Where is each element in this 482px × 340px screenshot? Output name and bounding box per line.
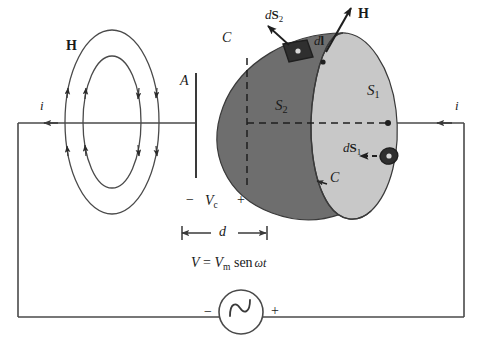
h-field-label-left: H xyxy=(66,39,77,53)
capacitor-minus-sign: − xyxy=(186,193,194,207)
capacitor-voltage-subscript: c xyxy=(214,200,218,210)
ds1-label: dS1 xyxy=(343,141,361,156)
field-arrow-inner-lower-left xyxy=(85,145,86,156)
capacitor-plus-sign: + xyxy=(237,193,245,207)
dl-label: dl xyxy=(314,34,324,47)
plate-a-label: A xyxy=(180,74,189,88)
surface-s2-letter: S xyxy=(275,97,283,113)
field-line-outer xyxy=(65,30,159,214)
dl-l: l xyxy=(321,33,325,48)
ds2-s: S xyxy=(272,7,279,22)
ds2-subscript: 2 xyxy=(279,14,283,24)
ds2-normal-arrow xyxy=(268,26,289,45)
surface-s1-subscript: 1 xyxy=(375,89,380,100)
equation-v-letter: V xyxy=(191,255,200,270)
field-line-arrowheads xyxy=(67,88,157,156)
ds2-label: dS2 xyxy=(265,8,283,23)
source-minus-sign: − xyxy=(204,305,212,319)
capacitor-voltage-letter: V xyxy=(205,193,214,208)
field-arrow-outer-lower-left xyxy=(67,146,68,156)
equation-vm-letter: V xyxy=(214,255,223,270)
axis-endpoint-dot xyxy=(385,120,391,126)
contour-label-c-bottom: C xyxy=(330,171,339,185)
field-arrow-outer-upper-left xyxy=(67,88,68,98)
field-arrow-inner-upper-left xyxy=(85,88,86,99)
gap-distance-label: d xyxy=(219,225,226,239)
contour-label-c-top: C xyxy=(222,31,231,45)
ds1-patch-center-dot xyxy=(386,153,391,158)
field-line-inner xyxy=(83,56,141,188)
ds2-patch-center-dot xyxy=(295,48,300,53)
source-equation: V = Vm senωt xyxy=(191,256,266,272)
ac-voltage-source[interactable] xyxy=(219,290,263,334)
equation-equals: = xyxy=(203,255,211,270)
equation-sen: sen xyxy=(234,255,253,270)
ac-source-circle[interactable] xyxy=(219,290,263,334)
surface-s1-label: S1 xyxy=(367,83,380,100)
h-field-label-right: H xyxy=(358,7,369,21)
ds1-s: S xyxy=(350,140,357,155)
surface-s2-label: S2 xyxy=(275,98,288,115)
source-plus-sign: + xyxy=(271,304,279,318)
equation-omega-t: ωt xyxy=(255,256,267,270)
surface-s2-subscript: 2 xyxy=(283,104,288,115)
surface-s1-letter: S xyxy=(367,82,375,98)
physics-diagram-figure: | ======== --> H H i i A C C S1 S2 dS2 d… xyxy=(0,0,482,340)
current-label-right: i xyxy=(455,99,459,112)
dl-contour-dot xyxy=(320,59,325,64)
current-label-left: i xyxy=(40,99,44,112)
capacitor-voltage-label: Vc xyxy=(205,194,218,210)
equation-vm-subscript: m xyxy=(223,262,230,272)
ds1-subscript: 1 xyxy=(357,147,361,157)
magnetic-field-lines xyxy=(65,30,159,214)
